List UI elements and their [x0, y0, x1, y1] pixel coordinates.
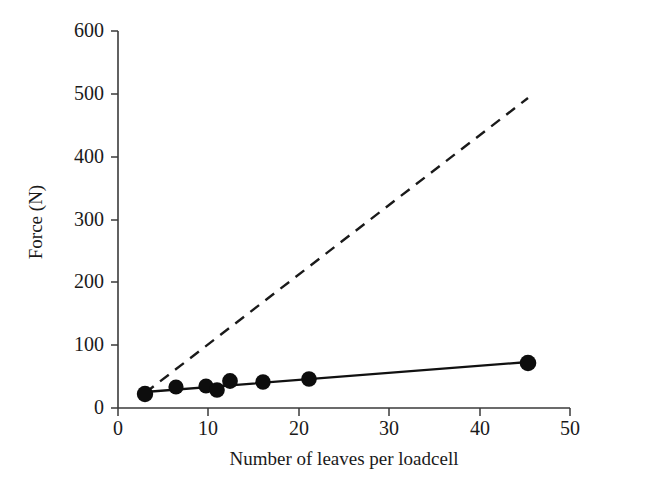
x-tick-label-50: 50: [560, 417, 580, 439]
y-tick-label-0: 0: [94, 396, 104, 418]
y-axis-ticks: [111, 31, 118, 408]
y-axis-tick-labels: 0 100 200 300 400 500 600: [74, 19, 104, 418]
y-tick-label-400: 400: [74, 145, 104, 167]
theoretical-dashed-line: [145, 98, 528, 393]
x-tick-label-10: 10: [198, 417, 218, 439]
data-point-marker: [255, 374, 270, 389]
x-axis-title: Number of leaves per loadcell: [230, 448, 459, 469]
y-tick-label-300: 300: [74, 208, 104, 230]
axes-group: [118, 31, 570, 408]
data-point-marker: [137, 386, 153, 402]
x-axis-ticks: [118, 408, 570, 416]
data-point-marker: [209, 382, 225, 398]
series-theoretical: [145, 98, 528, 393]
y-axis-title: Force (N): [25, 185, 47, 259]
data-point-marker: [301, 371, 317, 387]
data-point-marker: [168, 379, 183, 394]
x-tick-label-0: 0: [113, 417, 123, 439]
series-measured: [137, 355, 537, 402]
data-point-marker: [520, 355, 537, 372]
y-tick-label-200: 200: [74, 270, 104, 292]
x-tick-label-40: 40: [470, 417, 490, 439]
y-tick-label-600: 600: [74, 19, 104, 41]
x-tick-label-20: 20: [289, 417, 309, 439]
data-point-marker: [222, 373, 238, 389]
x-tick-label-30: 30: [379, 417, 399, 439]
y-tick-label-100: 100: [74, 333, 104, 355]
y-tick-label-500: 500: [74, 82, 104, 104]
x-axis-tick-labels: 0 10 20 30 40 50: [113, 417, 580, 439]
force-vs-leaves-chart: 0 100 200 300 400 500 600 0 10 20 30 40 …: [0, 0, 669, 489]
chart-figure: 0 100 200 300 400 500 600 0 10 20 30 40 …: [0, 0, 669, 489]
